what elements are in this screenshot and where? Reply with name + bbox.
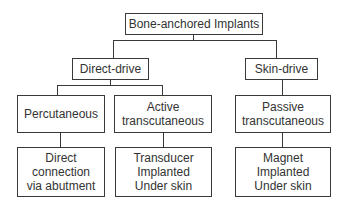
connector-to-skin-drive — [276, 40, 277, 58]
connector-to-passive — [282, 79, 283, 95]
node-transducer-implanted: Transducer Implanted Under skin — [115, 147, 212, 197]
node-active-transcutaneous: Active transcutaneous — [114, 95, 212, 133]
node-magnet-implanted: Magnet Implanted Under skin — [235, 147, 331, 197]
node-percutaneous: Percutaneous — [17, 95, 105, 133]
connector-to-active — [162, 85, 163, 95]
connector-to-direct-drive — [113, 40, 114, 58]
node-passive-transcutaneous: Passive transcutaneous — [235, 95, 331, 133]
node-direct-connection: Direct connection via abutment — [17, 147, 105, 197]
node-label: Active transcutaneous — [122, 100, 204, 128]
node-direct-drive: Direct-drive — [72, 58, 149, 80]
node-label: Direct-drive — [80, 62, 141, 76]
connector-root-horizontal — [113, 40, 277, 41]
node-label: Percutaneous — [24, 107, 98, 121]
connector-direct-drive-horizontal — [57, 85, 163, 86]
node-skin-drive: Skin-drive — [245, 58, 318, 80]
node-label: Transducer Implanted Under skin — [133, 151, 193, 193]
connector-passive-down — [282, 132, 283, 147]
node-label: Direct connection via abutment — [27, 151, 96, 193]
node-label: Bone-anchored Implants — [129, 17, 260, 31]
connector-to-percutaneous — [57, 85, 58, 95]
node-label: Magnet Implanted Under skin — [254, 151, 311, 193]
node-label: Passive transcutaneous — [242, 100, 324, 128]
connector-percutaneous-down — [60, 132, 61, 147]
node-label: Skin-drive — [255, 62, 308, 76]
connector-active-down — [163, 132, 164, 147]
node-bone-anchored-implants: Bone-anchored Implants — [125, 13, 263, 35]
